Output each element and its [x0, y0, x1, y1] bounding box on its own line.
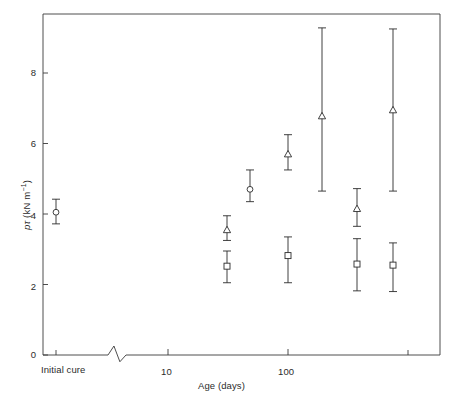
- y-axis-title-exponent: −1: [20, 183, 27, 191]
- error-bar: [284, 237, 292, 283]
- y-tick-label-6: 6: [22, 138, 36, 149]
- error-bar: [246, 170, 254, 202]
- figure-container: pτ (kN m−1) 8 6 4 2 0 10 100 Initial cur…: [0, 0, 454, 395]
- error-bar: [223, 216, 231, 241]
- marker-triangle: [223, 226, 230, 232]
- x-tick-label-100: 100: [278, 366, 294, 377]
- marker-circle: [247, 186, 253, 192]
- y-axis-title-symbol: pτ: [21, 221, 32, 230]
- error-bar: [284, 135, 292, 170]
- y-tick-label-2: 2: [22, 281, 36, 292]
- error-bar: [389, 243, 397, 292]
- y-tick-label-8: 8: [22, 67, 36, 78]
- marker-triangle: [353, 205, 360, 211]
- error-bar: [223, 251, 231, 283]
- x-axis-spine-with-break: [43, 346, 440, 362]
- marker-triangle: [284, 150, 291, 156]
- error-bar: [389, 29, 397, 191]
- y-axis-title-close: ): [21, 180, 32, 183]
- series-triangle: [223, 28, 397, 241]
- y-tick-label-4: 4: [22, 210, 36, 221]
- marker-square: [285, 253, 291, 259]
- marker-square: [354, 261, 360, 267]
- x-axis-title: Age (days): [198, 380, 245, 391]
- error-bar: [52, 199, 60, 224]
- error-bar: [318, 28, 326, 191]
- marker-square: [390, 262, 396, 268]
- marker-triangle: [389, 106, 396, 112]
- y-tick-label-0: 0: [22, 349, 36, 360]
- marker-circle: [53, 209, 59, 215]
- x-tick-label-10: 10: [161, 366, 172, 377]
- error-bar: [353, 189, 361, 227]
- marker-square: [224, 263, 230, 269]
- series-square: [223, 237, 397, 292]
- x-label-initial-cure: Initial cure: [41, 364, 86, 375]
- y-axis-title: pτ (kN m−1): [20, 180, 32, 230]
- chart-canvas: [0, 0, 454, 395]
- marker-triangle: [318, 112, 325, 118]
- error-bar: [353, 239, 361, 291]
